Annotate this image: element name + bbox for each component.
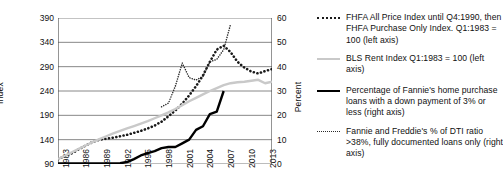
y-tick-left-290: 290 (28, 63, 54, 72)
chart-legend: FHFA All Price Index until Q4:1990, then… (316, 12, 503, 167)
series-dti-pct (162, 24, 231, 107)
y-tick-right-10: 10 (277, 136, 301, 145)
dti-fine-dotted-swatch-icon (316, 126, 341, 137)
y-tick-left-240: 240 (28, 87, 54, 96)
legend-item-3[interactable]: Fannie and Freddie's % of DTI ratio >38%… (316, 126, 503, 160)
y-tick-right-50: 50 (277, 38, 301, 47)
legend-item-1[interactable]: BLS Rent Index Q1:1983 = 100 (left axis) (316, 53, 503, 76)
legend-item-2[interactable]: Percentage of Fannie's home purchase loa… (316, 85, 503, 119)
y-tick-right-30: 30 (277, 87, 301, 96)
y-tick-right-20: 20 (277, 111, 301, 120)
fhfa-dotted-swatch-icon (316, 12, 341, 23)
chart-figure: Index Percent 39034029024019014090 60504… (0, 0, 503, 196)
rent-gray-swatch-icon (316, 53, 341, 64)
legend-item-label: Percentage of Fannie's home purchase loa… (346, 85, 503, 119)
legend-item-label: BLS Rent Index Q1:1983 = 100 (left axis) (346, 53, 503, 76)
y-axis-left-title: Index (0, 82, 5, 104)
legend-item-0[interactable]: FHFA All Price Index until Q4:1990, then… (316, 12, 503, 46)
plot-area (58, 18, 272, 164)
y-tick-left-90: 90 (28, 160, 54, 169)
y-tick-left-140: 140 (28, 136, 54, 145)
y-tick-left-390: 390 (28, 14, 54, 23)
legend-item-label: FHFA All Price Index until Q4:1990, then… (346, 12, 503, 46)
legend-item-label: Fannie and Freddie's % of DTI ratio >38%… (346, 126, 503, 160)
y-tick-right-0: 0 (277, 160, 301, 169)
y-tick-left-340: 340 (28, 38, 54, 47)
y-tick-right-60: 60 (277, 14, 301, 23)
y-tick-right-40: 40 (277, 63, 301, 72)
downpayment-black-swatch-icon (316, 85, 341, 96)
series-downpayment-pct (58, 91, 224, 164)
plot-canvas (58, 18, 272, 164)
y-tick-left-190: 190 (28, 111, 54, 120)
